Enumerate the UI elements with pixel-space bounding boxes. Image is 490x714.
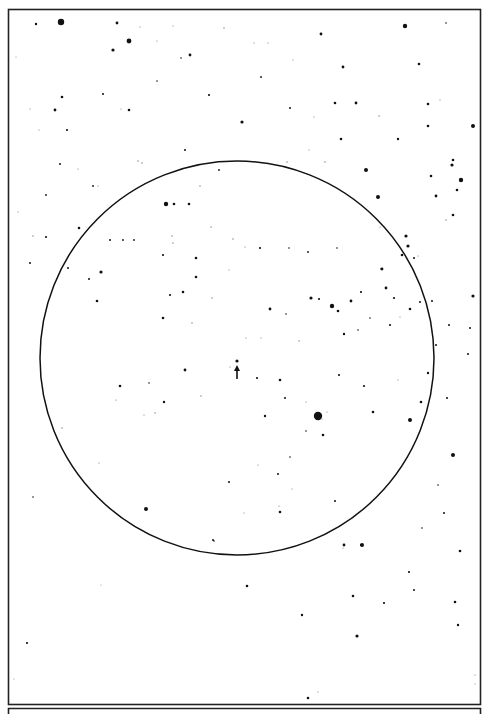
star <box>418 63 421 66</box>
star <box>277 473 279 475</box>
star <box>77 168 78 169</box>
star <box>385 287 388 290</box>
star <box>172 242 173 243</box>
star <box>285 313 287 315</box>
star <box>417 255 418 256</box>
star <box>116 22 119 25</box>
star <box>309 296 312 299</box>
next-frame-top-edge <box>9 709 481 714</box>
star <box>127 39 132 44</box>
star <box>172 25 173 26</box>
target-star <box>235 359 238 362</box>
star <box>360 291 362 293</box>
star <box>372 411 375 414</box>
star <box>427 103 430 106</box>
star <box>169 294 171 296</box>
star <box>343 333 345 335</box>
star <box>184 149 186 151</box>
star <box>223 27 224 28</box>
arrow-head <box>234 365 240 371</box>
star <box>162 254 164 256</box>
star <box>314 412 322 420</box>
star <box>342 66 345 69</box>
star <box>244 246 245 247</box>
star <box>115 399 116 400</box>
star <box>389 324 391 326</box>
star <box>141 162 142 163</box>
star <box>246 585 249 588</box>
star <box>213 540 215 542</box>
star <box>29 108 30 109</box>
star <box>456 189 459 192</box>
star <box>337 310 340 313</box>
star <box>101 585 102 586</box>
star <box>364 168 368 172</box>
star <box>437 484 439 486</box>
star <box>445 22 447 24</box>
star <box>35 23 37 25</box>
star <box>360 543 364 547</box>
star <box>32 235 33 236</box>
star <box>259 247 261 249</box>
star <box>284 397 286 399</box>
star <box>334 102 337 105</box>
star <box>336 247 338 249</box>
star <box>88 278 90 280</box>
star <box>435 344 437 346</box>
star <box>245 337 246 338</box>
star <box>450 163 453 166</box>
star <box>469 327 471 329</box>
star <box>352 595 355 598</box>
star <box>163 401 165 403</box>
star <box>291 488 292 489</box>
star <box>408 571 410 573</box>
star <box>431 300 433 302</box>
field-of-view-circle <box>40 161 434 555</box>
star <box>324 161 325 162</box>
star <box>475 684 476 685</box>
star <box>189 54 192 57</box>
star <box>162 317 165 320</box>
star <box>320 33 323 36</box>
star <box>195 257 198 260</box>
star <box>404 234 407 237</box>
star <box>59 163 61 165</box>
star <box>119 385 122 388</box>
star <box>200 395 201 396</box>
star <box>120 108 121 109</box>
star <box>260 337 261 338</box>
star <box>78 227 81 230</box>
star <box>210 226 211 227</box>
star <box>419 301 421 303</box>
star <box>338 374 340 376</box>
star <box>195 276 198 279</box>
star <box>292 59 293 60</box>
star-chart <box>0 0 490 714</box>
star <box>301 614 303 616</box>
star <box>448 324 450 326</box>
star <box>409 308 412 311</box>
star <box>288 247 290 249</box>
star <box>397 379 398 380</box>
star <box>350 300 353 303</box>
star <box>16 57 17 58</box>
star <box>61 427 62 428</box>
star <box>393 297 395 299</box>
star <box>58 19 64 25</box>
star <box>267 42 268 43</box>
star <box>435 195 438 198</box>
star <box>451 453 455 457</box>
star <box>330 304 334 308</box>
star <box>321 418 322 419</box>
star <box>452 159 455 162</box>
star <box>379 226 380 227</box>
star <box>14 679 15 680</box>
star <box>17 211 18 212</box>
star <box>427 125 430 128</box>
star <box>383 602 385 604</box>
star <box>144 507 148 511</box>
star <box>45 236 47 238</box>
star <box>289 107 291 109</box>
star <box>257 464 258 465</box>
star <box>182 291 185 294</box>
